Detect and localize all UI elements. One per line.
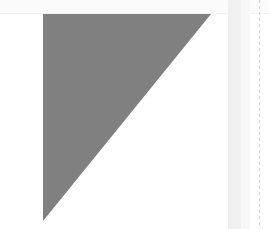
- dotted-vertical-rule: [259, 0, 260, 229]
- gray-triangle-polygon: [43, 14, 211, 221]
- left-margin: [0, 14, 43, 229]
- gray-triangle-shape: [43, 14, 211, 221]
- gray-triangle-svg: [43, 14, 211, 221]
- right-vertical-band: [228, 0, 241, 229]
- screen-canvas: [0, 0, 269, 229]
- right-vertical-band-soft: [241, 0, 250, 229]
- bottom-margin: [0, 221, 228, 229]
